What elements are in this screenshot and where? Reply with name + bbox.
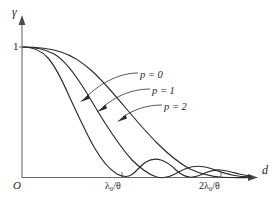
leader-line-p0	[86, 73, 138, 97]
leader-arrowhead-p2	[117, 115, 127, 123]
curve-p0	[23, 47, 251, 177]
plot-canvas	[0, 0, 277, 204]
series-label-p2: p = 2	[164, 102, 187, 113]
y-axis-arrowhead	[19, 15, 26, 25]
y-tick-label-one: 1	[13, 41, 19, 52]
curve-p1	[23, 47, 251, 178]
x-tick-label-two-lambda: 2λ₀/θ	[199, 181, 220, 191]
curve-p2	[23, 47, 251, 178]
x-axis-label: d	[262, 164, 268, 176]
leader-line-p1	[103, 89, 150, 107]
leader-arrowhead-p0	[80, 95, 90, 103]
y-axis-label: γ	[12, 6, 17, 18]
axes-group	[19, 15, 258, 181]
coherence-figure: γ d 1 O λ₀/θ 2λ₀/θ p = 0 p = 1 p = 2	[0, 0, 277, 204]
origin-label: O	[13, 180, 21, 191]
x-tick-label-lambda: λ₀/θ	[105, 181, 121, 191]
curves-group	[23, 47, 251, 178]
series-label-p0: p = 0	[140, 70, 163, 81]
leader-arrowhead-p1	[97, 105, 107, 113]
series-label-p1: p = 1	[152, 86, 175, 97]
